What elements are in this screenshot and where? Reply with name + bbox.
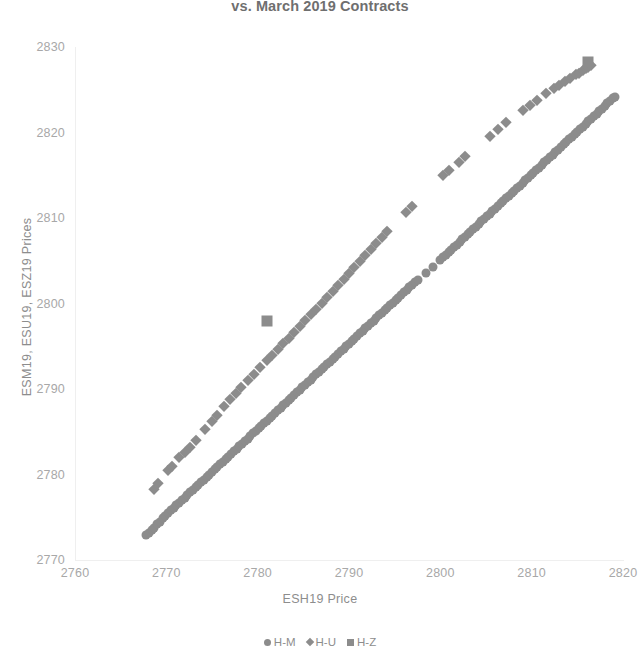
data-point-h-u <box>484 131 495 142</box>
y-tick-label: 2770 <box>17 554 65 566</box>
legend-label: H-Z <box>357 636 376 648</box>
data-point-h-m <box>429 262 438 271</box>
data-point-h-z <box>583 56 594 67</box>
legend-item-h-m[interactable]: H-M <box>264 636 296 648</box>
circle-marker-icon <box>264 639 271 646</box>
x-axis-title: ESH19 Price <box>0 592 640 606</box>
legend-item-h-u[interactable]: H-U <box>307 636 336 648</box>
chart-legend: H-MH-UH-Z <box>0 636 640 648</box>
y-tick-label: 2790 <box>17 383 65 395</box>
data-point-h-u <box>501 117 512 128</box>
data-point-h-z <box>261 315 272 326</box>
y-tick-label: 2830 <box>17 41 65 53</box>
y-tick-label: 2820 <box>17 127 65 139</box>
x-tick-label: 2820 <box>593 566 640 580</box>
data-point-h-m <box>413 275 422 284</box>
legend-label: H-U <box>316 636 336 648</box>
legend-item-h-z[interactable]: H-Z <box>347 636 376 648</box>
x-tick-label: 2760 <box>45 566 105 580</box>
x-tick-label: 2810 <box>502 566 562 580</box>
y-tick-label: 2810 <box>17 212 65 224</box>
y-tick-label: 2800 <box>17 298 65 310</box>
x-tick-label: 2780 <box>228 566 288 580</box>
chart-title: vs. March 2019 Contracts <box>0 0 640 16</box>
legend-label: H-M <box>274 636 296 648</box>
scatter-chart: vs. March 2019 Contracts ESM19, ESU19, E… <box>0 0 640 656</box>
x-tick-label: 2770 <box>136 566 196 580</box>
plot-area <box>75 47 623 560</box>
diamond-marker-icon <box>305 638 313 646</box>
x-tick-label: 2800 <box>410 566 470 580</box>
data-point-h-u <box>493 124 504 135</box>
data-point-h-u <box>199 424 210 435</box>
data-point-h-m <box>610 92 619 101</box>
y-tick-label: 2780 <box>17 469 65 481</box>
x-tick-label: 2790 <box>319 566 379 580</box>
square-marker-icon <box>347 639 354 646</box>
